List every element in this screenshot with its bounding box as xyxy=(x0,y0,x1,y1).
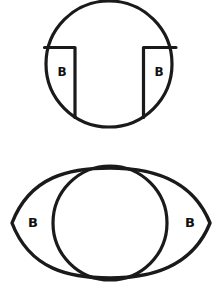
bottom-outer-lens xyxy=(12,168,210,278)
bottom-inner-circle xyxy=(53,166,167,280)
top-right-label-b: B xyxy=(154,65,163,79)
geometric-diagram-svg: B B B B xyxy=(0,0,221,286)
top-figure-group: B B xyxy=(45,1,177,127)
top-left-label-b: B xyxy=(57,65,66,79)
bottom-left-label-b: B xyxy=(28,215,38,230)
bottom-right-label-b: B xyxy=(185,215,195,230)
bottom-figure-group: B B xyxy=(12,166,210,280)
diagram-canvas: B B B B xyxy=(0,0,221,286)
